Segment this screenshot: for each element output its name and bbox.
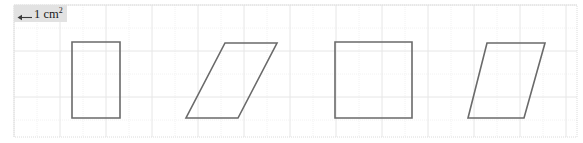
unit-label-exponent: 2 xyxy=(59,6,63,15)
rectangle-1 xyxy=(72,42,120,118)
unit-label-text: 1 cm xyxy=(34,7,59,21)
parallelogram-2 xyxy=(186,43,277,118)
geometry-figure: 1 cm2 xyxy=(0,0,583,143)
unit-label: 1 cm2 xyxy=(34,7,63,21)
parallelogram-4 xyxy=(468,43,545,118)
shapes-layer xyxy=(0,0,583,143)
square-3 xyxy=(335,42,412,118)
left-arrow-icon xyxy=(17,9,32,18)
unit-legend: 1 cm2 xyxy=(14,5,67,22)
